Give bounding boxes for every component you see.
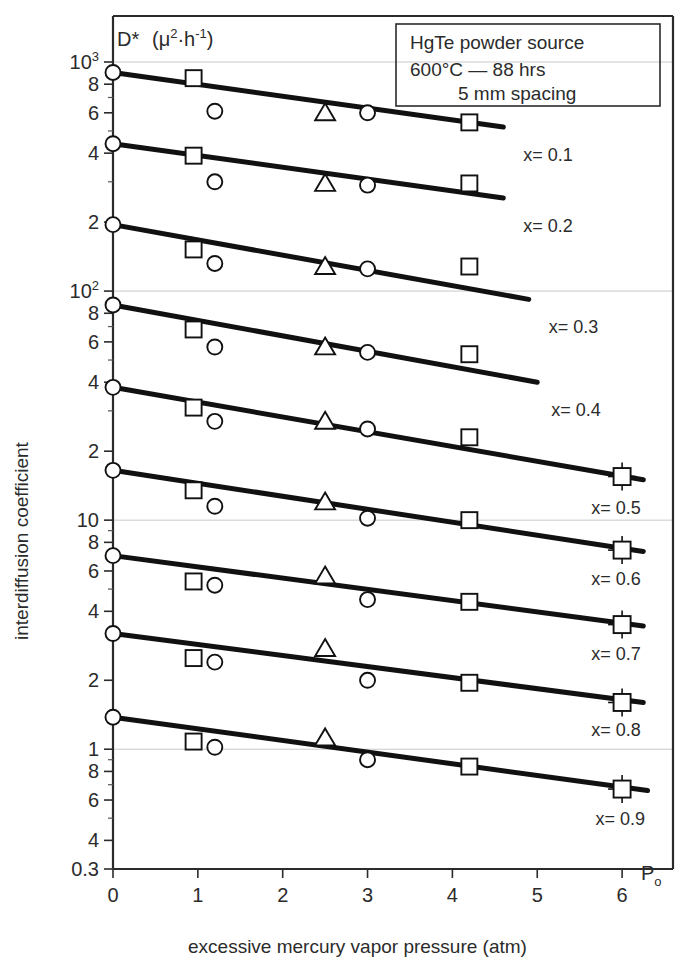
square-marker	[186, 482, 202, 498]
x-tick-label: 1	[192, 884, 203, 906]
square-marker	[186, 148, 202, 164]
po-symbol: P	[641, 862, 654, 884]
curve-label: x= 0.1	[523, 145, 573, 165]
circle-marker	[207, 499, 222, 514]
y-tick-label: 10	[77, 509, 99, 531]
square-marker	[186, 734, 202, 750]
square-marker	[186, 70, 202, 86]
curve-label: x= 0.6	[591, 569, 641, 589]
figure-root: 1038642102864210864218640.3 0123456 x= 0…	[0, 0, 698, 967]
square-marker	[461, 259, 477, 275]
y-tick-exponent: 3	[92, 49, 99, 64]
y-tick-label: 6	[88, 102, 99, 124]
square-marker	[461, 175, 477, 191]
y-tick-label: 2	[88, 211, 99, 233]
circle-marker	[106, 136, 121, 151]
curve-label: x= 0.2	[523, 216, 573, 236]
y-tick-label: 8	[88, 302, 99, 324]
y-tick-label: 0.3	[71, 858, 99, 880]
y-axis-title: interdiffusion coefficient	[11, 441, 32, 640]
circle-marker	[207, 339, 222, 354]
y-tick-label: 8	[88, 73, 99, 95]
y-tick-label: 8	[88, 531, 99, 553]
square-marker	[186, 321, 202, 337]
y-tick-label: 8	[88, 760, 99, 782]
y-tick-label: 6	[88, 789, 99, 811]
x-tick-label: 4	[447, 884, 458, 906]
circle-marker	[207, 655, 222, 670]
y-tick-label: 6	[88, 331, 99, 353]
circle-marker	[360, 105, 375, 120]
curve-label: x= 0.5	[591, 498, 641, 518]
square-marker	[461, 429, 477, 445]
circle-marker	[207, 740, 222, 755]
square-marker	[186, 241, 202, 257]
square-marker	[461, 759, 477, 775]
square-marker	[186, 650, 202, 666]
square-marker	[461, 594, 477, 610]
circle-marker	[207, 174, 222, 189]
square-marker	[614, 468, 631, 485]
legend-line-2: 600°C — 88 hrs	[410, 59, 545, 80]
y-tick-label: 4	[88, 600, 99, 622]
curve-label: x= 0.8	[591, 720, 641, 740]
curve-label: x= 0.3	[549, 317, 599, 337]
x-tick-label: 0	[107, 884, 118, 906]
square-marker	[461, 114, 477, 130]
chart-canvas: 1038642102864210864218640.3 0123456 x= 0…	[0, 0, 698, 967]
x-tick-label: 3	[362, 884, 373, 906]
circle-marker	[360, 592, 375, 607]
circle-marker	[360, 511, 375, 526]
quantity-symbol: D*	[117, 28, 139, 50]
y-tick-label: 6	[88, 560, 99, 582]
y-tick-base: 10	[70, 280, 92, 302]
circle-marker	[207, 578, 222, 593]
square-marker	[461, 346, 477, 362]
circle-marker	[106, 297, 121, 312]
circle-marker	[106, 710, 121, 725]
square-marker	[614, 542, 631, 559]
circle-marker	[106, 463, 121, 478]
curve-label: x= 0.4	[551, 400, 601, 420]
y-tick-base: 10	[70, 51, 92, 73]
legend-line-1: HgTe powder source	[410, 32, 584, 53]
x-tick-label: 6	[617, 884, 628, 906]
y-tick-label: 4	[88, 829, 99, 851]
square-marker	[461, 512, 477, 528]
quantity-units-close: )	[207, 28, 214, 50]
circle-marker	[106, 380, 121, 395]
circle-marker	[360, 421, 375, 436]
circle-marker	[207, 104, 222, 119]
x-tick-label: 2	[277, 884, 288, 906]
x-axis-title: excessive mercury vapor pressure (atm)	[188, 936, 527, 957]
y-tick-label: 4	[88, 142, 99, 164]
square-marker	[461, 675, 477, 691]
circle-marker	[106, 65, 121, 80]
square-marker	[614, 781, 631, 798]
circle-marker	[360, 345, 375, 360]
circle-marker	[106, 217, 121, 232]
circle-marker	[360, 261, 375, 276]
square-marker	[614, 616, 631, 633]
y-tick-label: 2	[88, 440, 99, 462]
circle-marker	[106, 548, 121, 563]
y-tick-label: 4	[88, 371, 99, 393]
circle-marker	[360, 178, 375, 193]
x-tick-label: 5	[532, 884, 543, 906]
square-marker	[186, 400, 202, 416]
legend-line-3: 5 mm spacing	[458, 83, 576, 104]
square-marker	[614, 694, 631, 711]
circle-marker	[207, 414, 222, 429]
square-marker	[186, 573, 202, 589]
y-tick-label: 2	[88, 669, 99, 691]
circle-marker	[207, 256, 222, 271]
svg-text:D*: D*	[117, 28, 139, 50]
quantity-units-open: (μ	[152, 28, 170, 50]
circle-marker	[360, 673, 375, 688]
curve-label: x= 0.9	[596, 809, 646, 829]
y-tick-label: 1	[88, 738, 99, 760]
circle-marker	[106, 626, 121, 641]
curve-label: x= 0.7	[591, 644, 641, 664]
po-subscript: o	[654, 874, 661, 889]
quantity-units-mid: ·h	[177, 28, 195, 50]
